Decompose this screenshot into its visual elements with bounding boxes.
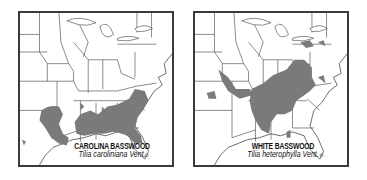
white-basswood-range bbox=[250, 60, 316, 134]
carolina-basswood-range bbox=[39, 106, 68, 145]
great-lakes bbox=[67, 18, 153, 41]
white-basswood-map: WHITE BASSWOOD Tilia heterophylla Vent. bbox=[193, 11, 349, 167]
great-lakes bbox=[242, 18, 328, 41]
map-caption: CAROLINA BASSWOOD Tilia caroliniana Vent… bbox=[66, 142, 158, 159]
scientific-name: Tilia caroliniana Vent. bbox=[73, 150, 151, 159]
carolina-basswood-map: CAROLINA BASSWOOD Tilia caroliniana Vent… bbox=[18, 11, 174, 167]
map-caption: WHITE BASSWOOD Tilia heterophylla Vent. bbox=[241, 142, 325, 159]
scientific-name: Tilia heterophylla Vent. bbox=[247, 150, 318, 159]
